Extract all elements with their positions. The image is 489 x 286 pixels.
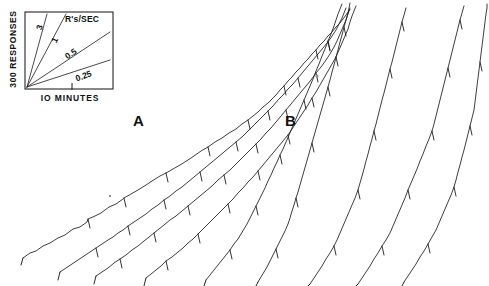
condition-label-a: A xyxy=(133,112,144,129)
cumulative-record-figure: 300 RESPONSES IO MINUTES R's/SEC 3 1 0.5… xyxy=(0,0,489,286)
condition-label-b: B xyxy=(285,112,296,129)
legend-units-label: R's/SEC xyxy=(65,14,99,24)
legend-x-axis-label: IO MINUTES xyxy=(24,93,116,103)
legend-y-axis-label: 300 RESPONSES xyxy=(8,3,18,95)
rate-calibration-inset xyxy=(0,0,489,286)
